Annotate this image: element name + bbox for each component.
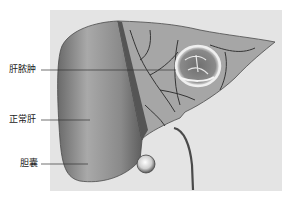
abscess-lesion bbox=[176, 46, 220, 86]
bile-duct bbox=[174, 128, 193, 190]
gallbladder bbox=[137, 155, 155, 173]
label-gallbladder: 胆囊 bbox=[20, 158, 38, 169]
liver-illustration bbox=[0, 0, 287, 198]
label-normal-liver: 正常肝 bbox=[9, 114, 36, 125]
label-liver-abscess: 肝脓肿 bbox=[9, 64, 36, 75]
